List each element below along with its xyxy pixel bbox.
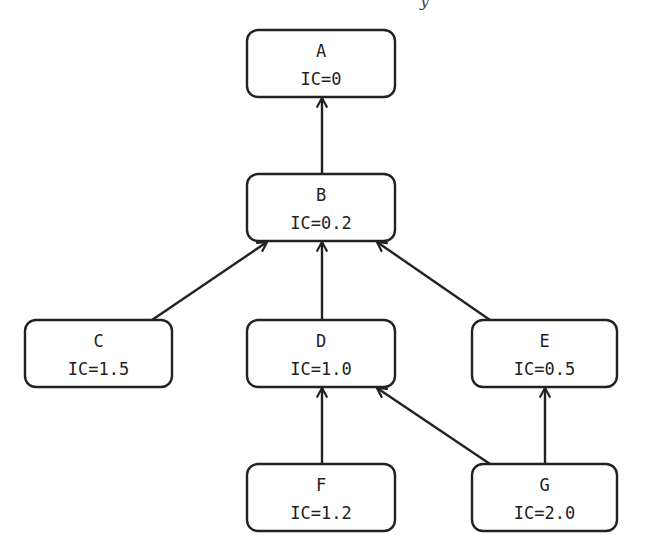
node-b: BIC=0.2 bbox=[247, 174, 395, 241]
node-f: FIC=1.2 bbox=[247, 464, 395, 531]
edge-d-to-b bbox=[317, 242, 327, 320]
edge-g-to-d bbox=[377, 388, 490, 464]
edge-f-to-d bbox=[317, 388, 327, 464]
node-ic-value: IC=2.0 bbox=[514, 503, 575, 523]
node-label: G bbox=[539, 475, 549, 495]
edge-line bbox=[152, 242, 267, 320]
node-label: A bbox=[316, 41, 326, 61]
edge-line bbox=[377, 388, 490, 464]
node-label: F bbox=[316, 475, 326, 495]
node-g: GIC=2.0 bbox=[472, 464, 617, 531]
node-ic-value: IC=0.5 bbox=[514, 359, 575, 379]
edges-layer bbox=[152, 98, 550, 464]
node-e: EIC=0.5 bbox=[472, 320, 617, 387]
edge-b-to-a bbox=[317, 98, 327, 174]
node-ic-value: IC=1.2 bbox=[290, 503, 351, 523]
node-ic-value: IC=1.5 bbox=[68, 359, 129, 379]
cropped-top-glyph: y bbox=[419, 0, 430, 10]
node-ic-value: IC=0 bbox=[301, 69, 342, 89]
node-d: DIC=1.0 bbox=[247, 320, 395, 387]
node-label: E bbox=[539, 331, 549, 351]
node-label: D bbox=[316, 331, 326, 351]
node-ic-value: IC=1.0 bbox=[290, 359, 351, 379]
node-c: CIC=1.5 bbox=[25, 320, 172, 387]
edge-g-to-e bbox=[540, 388, 550, 464]
node-label: C bbox=[93, 331, 103, 351]
node-ic-value: IC=0.2 bbox=[290, 213, 351, 233]
edge-line bbox=[377, 242, 490, 320]
edge-c-to-b bbox=[152, 242, 267, 320]
edge-e-to-b bbox=[377, 242, 490, 320]
node-label: B bbox=[316, 185, 326, 205]
ic-hierarchy-diagram: y AIC=0BIC=0.2CIC=1.5DIC=1.0EIC=0.5FIC=1… bbox=[0, 0, 650, 557]
node-a: AIC=0 bbox=[247, 30, 395, 97]
